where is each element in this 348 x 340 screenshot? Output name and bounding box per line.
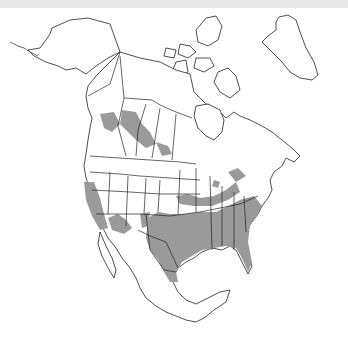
greenland [262,15,318,80]
north-america-range-map [0,0,348,340]
mainland [84,52,300,322]
